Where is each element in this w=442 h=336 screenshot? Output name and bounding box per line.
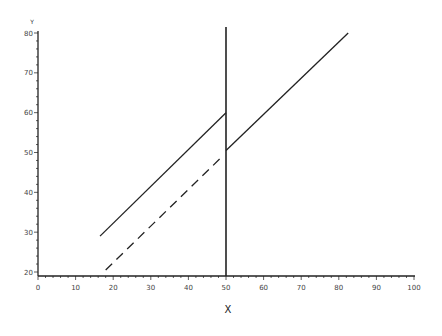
series-upper-left-solid (100, 113, 226, 236)
y-tick-label: 20 (24, 269, 33, 277)
x-tick-label: 50 (222, 284, 231, 292)
y-tick-label: 30 (24, 229, 33, 237)
data-series (100, 27, 348, 276)
x-tick-label: 10 (71, 284, 80, 292)
x-tick-labels: 0102030405060708090100 (36, 284, 421, 292)
x-tick-label: 0 (36, 284, 40, 292)
y-tick-label: 50 (24, 149, 33, 157)
x-tick-label: 30 (146, 284, 155, 292)
chart: 20304050607080 0102030405060708090100 Y … (0, 0, 442, 336)
y-tick-labels: 20304050607080 (24, 30, 33, 277)
x-tick-label: 90 (372, 284, 381, 292)
y-axis-title: Y (29, 18, 34, 25)
y-tick-label: 40 (24, 189, 33, 197)
x-tick-label: 70 (297, 284, 306, 292)
x-tick-label: 100 (407, 284, 420, 292)
x-tick-label: 40 (184, 284, 193, 292)
minor-ticks (34, 33, 414, 280)
x-tick-label: 60 (259, 284, 268, 292)
y-tick-label: 80 (24, 30, 33, 38)
x-axis-title: X (225, 304, 232, 315)
x-tick-label: 80 (334, 284, 343, 292)
x-tick-label: 20 (109, 284, 118, 292)
y-tick-label: 70 (24, 69, 33, 77)
series-right-solid (226, 33, 348, 151)
y-tick-label: 60 (24, 109, 33, 117)
